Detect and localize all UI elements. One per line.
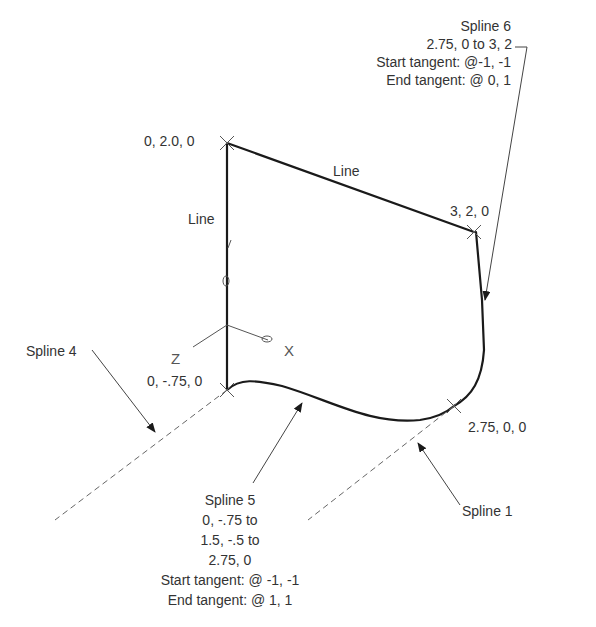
- spline-5-title: Spline 5: [130, 490, 330, 510]
- profile-geometry: [227, 143, 484, 421]
- marker-top-right: [467, 225, 481, 239]
- point-label-bottom-right: 2.75, 0, 0: [468, 418, 526, 436]
- spline-1-leader: [418, 443, 460, 505]
- z-axis-line: [193, 325, 227, 347]
- x-axis-arrow-glyph: [262, 336, 272, 342]
- line-label-top: Line: [333, 162, 359, 180]
- leader-arrows: [92, 47, 527, 505]
- spline-5-point-1: 0, -.75 to: [130, 510, 330, 530]
- spline-6-range: 2.75, 0 to 3, 2: [311, 35, 512, 53]
- spline-5-curve: [227, 381, 454, 420]
- spline-5-annotation: Spline 5 0, -.75 to 1.5, -.5 to 2.75, 0 …: [130, 490, 330, 610]
- spline-6-start-tangent: Start tangent: @-1, -1: [311, 53, 511, 71]
- spline-5-start-tangent: Start tangent: @ -1, -1: [130, 570, 330, 590]
- spline-diagram: Spline 6 2.75, 0 to 3, 2 Start tangent: …: [0, 0, 596, 627]
- point-label-bottom-left: 0, -.75, 0: [147, 372, 202, 390]
- spline-5-point-3: 2.75, 0: [130, 550, 330, 570]
- spline-5-leader: [253, 403, 302, 483]
- y-axis-tick: [228, 240, 231, 248]
- spline-6-title: Spline 6: [311, 17, 511, 35]
- point-label-top-left: 0, 2.0, 0: [144, 132, 195, 150]
- spline-5-end-tangent: End tangent: @ 1, 1: [130, 590, 330, 610]
- axis-label-x: X: [284, 342, 294, 360]
- spline-6-annotation: Spline 6 2.75, 0 to 3, 2 Start tangent: …: [311, 17, 511, 89]
- coordinate-system-icon: [193, 240, 272, 347]
- axis-label-z: Z: [171, 350, 180, 368]
- line-label-left: Line: [188, 210, 214, 228]
- spline-1-label: Spline 1: [462, 502, 513, 520]
- spline-5-point-2: 1.5, -.5 to: [130, 530, 330, 550]
- spline-6-end-tangent: End tangent: @ 0, 1: [311, 71, 511, 89]
- spline-4-leader: [92, 350, 155, 432]
- spline-6-curve: [454, 232, 484, 406]
- top-line: [227, 143, 474, 232]
- spline-4-label: Spline 4: [26, 342, 77, 360]
- point-label-top-right: 3, 2, 0: [450, 202, 489, 220]
